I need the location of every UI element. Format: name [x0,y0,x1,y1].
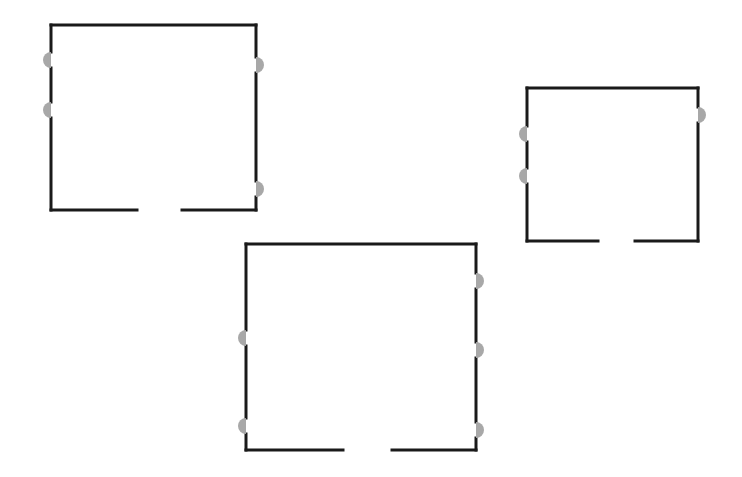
room-3 [238,244,484,450]
door-marker-icon [698,107,706,123]
door-marker-icon [238,330,246,346]
door-marker-icon [476,342,484,358]
door-marker-icon [476,422,484,438]
door-marker-icon [519,126,527,142]
door-marker-icon [43,102,51,118]
door-marker-icon [256,57,264,73]
room-1 [43,25,264,210]
room-2 [519,88,706,241]
door-marker-icon [519,168,527,184]
floorplan-diagram [0,0,742,477]
door-marker-icon [238,418,246,434]
door-marker-icon [256,181,264,197]
door-marker-icon [476,273,484,289]
door-marker-icon [43,52,51,68]
